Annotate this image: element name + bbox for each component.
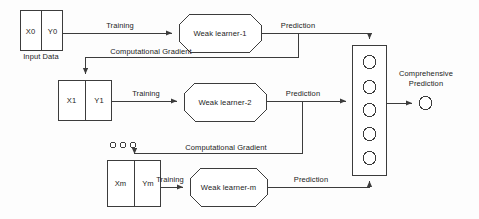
gradient-label-2: Computational Gradient — [168, 143, 284, 152]
gradient-label-1: Computational Gradient — [93, 47, 209, 56]
training-label-m: Training — [150, 175, 190, 184]
training-label-1: Training — [124, 89, 168, 98]
prediction-label-2: Prediction — [277, 89, 329, 98]
aggregation-box-shape — [353, 46, 387, 176]
learner-m-label: Weak learner-m — [190, 183, 267, 192]
prediction-edge-1 — [261, 33, 370, 39]
input-data-caption: Input Data — [11, 52, 71, 61]
comprehensive-prediction-label-line2: Prediction — [391, 79, 461, 88]
data-block-m-x-label: Xm — [107, 179, 134, 188]
data-block-1-y-label: Y1 — [86, 96, 112, 105]
prediction-label-1: Prediction — [272, 21, 324, 30]
learner-2-label: Weak learner-2 — [184, 98, 266, 107]
data-block-0-x-label: X0 — [20, 27, 41, 36]
prediction-label-m: Prediction — [285, 175, 337, 184]
comprehensive-prediction-node — [419, 97, 432, 110]
data-block-1-x-label: X1 — [58, 96, 85, 105]
training-label-0: Training — [98, 21, 142, 30]
learner-1-label: Weak learner-1 — [179, 29, 261, 38]
data-block-0-y-label: Y0 — [42, 27, 63, 36]
diagram-canvas: X0 Y0 Input Data X1 Y1 Xm Ym Weak learne… — [0, 0, 479, 219]
ellipsis-dots — [110, 142, 135, 147]
comprehensive-prediction-label-line1: Comprehensive — [391, 69, 461, 78]
